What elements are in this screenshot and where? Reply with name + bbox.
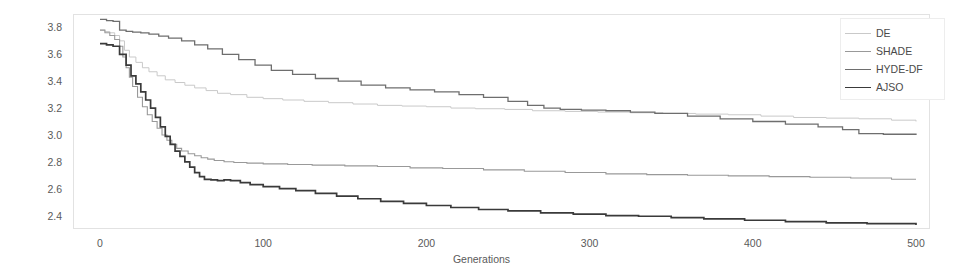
legend: DESHADEHYDE-DFAJSO (840, 18, 945, 100)
x-axis-tick-labels: 0100200300400500 (0, 0, 963, 278)
legend-item-hyde-df[interactable]: HYDE-DF (845, 61, 945, 78)
legend-label: AJSO (876, 80, 903, 95)
legend-swatch-hyde-df (845, 69, 871, 70)
x-tick-label: 500 (886, 238, 946, 249)
legend-label: DE (876, 26, 891, 41)
x-tick-label: 0 (70, 238, 130, 249)
legend-item-de[interactable]: DE (845, 25, 945, 42)
x-tick-label: 400 (723, 238, 783, 249)
legend-item-shade[interactable]: SHADE (845, 43, 945, 60)
legend-swatch-ajso (845, 87, 871, 88)
legend-item-ajso[interactable]: AJSO (845, 79, 945, 96)
x-tick-label: 100 (233, 238, 293, 249)
x-tick-label: 300 (560, 238, 620, 249)
legend-swatch-shade (845, 51, 871, 52)
x-axis-title: Generations (0, 253, 963, 265)
legend-swatch-de (845, 33, 871, 34)
x-tick-label: 200 (396, 238, 456, 249)
legend-label: SHADE (876, 44, 912, 59)
convergence-chart: 2.42.62.83.03.23.43.63.8 010020030040050… (0, 0, 963, 278)
legend-label: HYDE-DF (876, 62, 923, 77)
